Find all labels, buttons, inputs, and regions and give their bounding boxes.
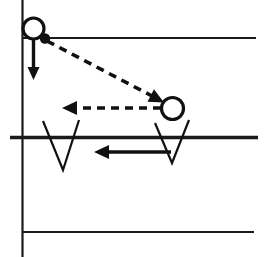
point-markers-group	[40, 33, 50, 43]
ball-landing	[162, 98, 184, 120]
figure-root	[0, 0, 264, 257]
origin-dot	[40, 33, 50, 43]
motion-diagram-svg	[0, 0, 264, 257]
